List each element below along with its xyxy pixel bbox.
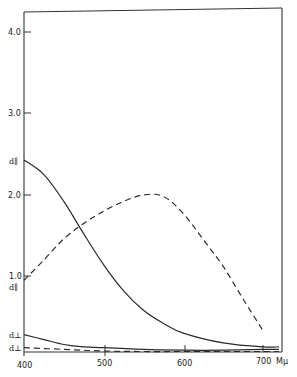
y-tick-label-2: 2.0 (8, 191, 21, 200)
x-axis-unit: Mμ (276, 357, 288, 366)
curve-0 (24, 160, 279, 347)
y-tick-label-3: 3.0 (8, 109, 21, 118)
label-d-perp-solid: d⊥ (9, 331, 22, 340)
frame-top (24, 8, 282, 12)
label-d-parallel-dashed: d∥ (9, 283, 18, 292)
y-tick-label-1: 1.0 (9, 272, 22, 281)
plot-frame (24, 8, 282, 356)
y-ticks (24, 32, 31, 276)
label-d-parallel-solid: d∥ (9, 157, 18, 166)
label-d-perp-dashed: d⊥ (9, 344, 22, 353)
y-tick-label-4: 4.0 (8, 28, 21, 37)
curve-2 (24, 335, 279, 351)
x-tick-label-400: 400 (17, 361, 32, 370)
spectral-chart: 4.0 3.0 2.0 1.0 400 500 600 700 Mμ d∥ d∥… (0, 0, 297, 377)
x-tick-label-700: 700 (256, 357, 271, 366)
x-tick-label-600: 600 (177, 359, 192, 368)
curves (24, 160, 279, 352)
x-tick-label-500: 500 (97, 359, 112, 368)
